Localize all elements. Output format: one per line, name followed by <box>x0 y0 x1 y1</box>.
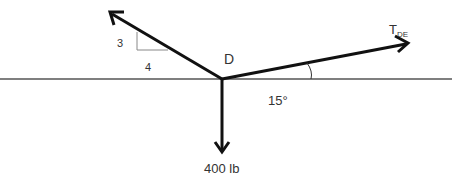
free-body-diagram: 3 4 D TDE 15° 400 lb <box>0 0 474 183</box>
tension-label-main: T <box>389 22 397 37</box>
load-arrow <box>215 79 229 152</box>
slope-rise-label: 3 <box>117 37 123 49</box>
angle-label: 15° <box>268 93 288 108</box>
slope-triangle <box>137 32 168 50</box>
point-d-label: D <box>224 51 234 67</box>
slope-run-label: 4 <box>145 61 151 73</box>
left-force-arrow <box>110 12 222 79</box>
tension-label: TDE <box>389 22 408 39</box>
tension-label-subscript: DE <box>397 30 408 39</box>
tension-de-arrow <box>222 36 408 79</box>
angle-arc <box>307 63 312 79</box>
load-label: 400 lb <box>204 161 239 176</box>
